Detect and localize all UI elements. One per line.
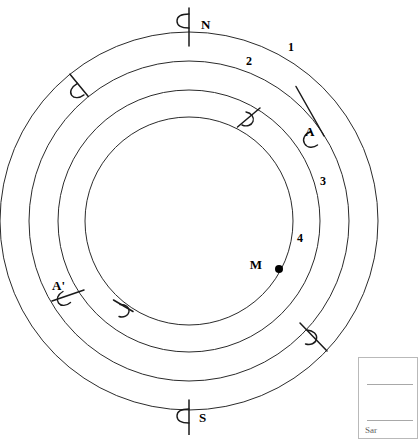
circle-ring-4-label: 4 <box>297 231 303 245</box>
tick-outer-nw <box>70 74 88 97</box>
legend-caption-text: Sar <box>365 425 377 435</box>
legend-divider-bottom <box>367 420 413 421</box>
tick-outer-se-loop-icon <box>306 330 317 344</box>
circle-ring-4 <box>85 117 293 325</box>
circle-ring-1-label: 1 <box>288 40 294 54</box>
north-pole-axis-group <box>177 8 189 46</box>
circle-ring-2 <box>29 61 349 381</box>
circle-ring-3-label: 3 <box>320 174 326 188</box>
south-rotation-loop-icon <box>177 409 189 423</box>
circle-ring-3 <box>58 90 320 352</box>
tick-outer-se <box>300 323 327 351</box>
anchor-a-label: A <box>305 124 315 139</box>
circle-ring-1 <box>0 32 378 410</box>
north-pole-label: N <box>201 17 211 32</box>
tick-outer-se-line <box>300 323 327 351</box>
point-m-dot <box>275 265 283 273</box>
tick-inner-sw <box>114 300 134 317</box>
tick-outer-nw-loop-icon <box>71 83 84 97</box>
north-rotation-loop-icon <box>177 14 189 28</box>
tick-inner-ne-line <box>238 108 261 127</box>
tick-inner-ne <box>238 108 261 127</box>
tick-outer-nw-line <box>70 74 88 96</box>
south-pole-axis-group <box>177 400 189 435</box>
south-pole-label: S <box>199 410 206 425</box>
legend-divider-top <box>367 384 413 385</box>
point-m-label: M <box>250 257 262 272</box>
anchor-a-prime-label: A' <box>52 278 65 293</box>
legend-panel-fragment: Sar <box>358 357 418 439</box>
circle-ring-2-label: 2 <box>246 54 252 68</box>
